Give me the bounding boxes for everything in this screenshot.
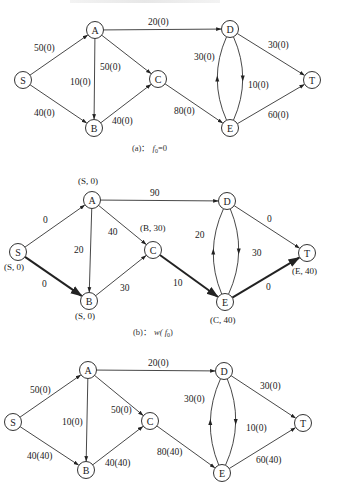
edge-label: 30(0) xyxy=(194,52,215,63)
edge-label: 30 xyxy=(120,283,130,293)
edge-label: 30 xyxy=(252,248,262,258)
edge-a-D-E xyxy=(233,37,242,120)
node-label-tag: (S, 0) xyxy=(75,311,95,321)
node-a-C: C xyxy=(150,71,167,88)
svg-text:B: B xyxy=(91,123,98,134)
svg-text:A: A xyxy=(84,365,92,376)
edge-c-A-D xyxy=(96,370,215,371)
node-label-tag: (C, 40) xyxy=(210,315,236,325)
caption-b: (b)： w( f0) xyxy=(133,327,173,338)
edge-label: 60(40) xyxy=(256,455,281,466)
node-b-D: D xyxy=(219,193,236,210)
arrowhead-icon xyxy=(237,248,241,254)
arrowhead-icon xyxy=(211,248,215,254)
edge-b-A-C xyxy=(99,205,146,244)
node-c-D: D xyxy=(216,363,233,380)
node-b-T: T xyxy=(299,245,316,262)
node-label-tag: (S, 0) xyxy=(4,262,24,272)
node-b-A: A xyxy=(84,192,101,209)
node-b-B: B xyxy=(81,293,98,310)
edge-label: 80(40) xyxy=(157,447,182,458)
node-c-S: S xyxy=(5,414,22,431)
edge-b-D-E xyxy=(229,209,239,294)
edge-label: 30(0) xyxy=(184,394,205,405)
edge-label: 10(0) xyxy=(248,80,269,91)
caption-a: (a)： f0=0 xyxy=(132,143,167,154)
svg-text:B: B xyxy=(83,465,90,476)
edge-a-S-A xyxy=(30,35,88,75)
edge-label: 0 xyxy=(42,279,47,289)
svg-text:B: B xyxy=(86,296,93,307)
edge-label: 50(0) xyxy=(111,405,132,416)
arrowhead-icon xyxy=(208,419,212,425)
svg-text:E: E xyxy=(219,468,225,479)
node-a-D: D xyxy=(222,21,239,38)
node-c-E: E xyxy=(214,465,231,482)
edge-label: 0 xyxy=(43,215,48,225)
node-a-S: S xyxy=(15,72,32,89)
edge-a-A-B xyxy=(94,38,95,119)
node-b-S: S xyxy=(10,244,27,261)
flow-network-diagrams: SABCDETSABCDETSABCDET 50(0)40(0)10(0)50(… xyxy=(0,0,337,484)
edge-a-C-E xyxy=(165,84,223,123)
svg-text:E: E xyxy=(222,297,228,308)
edge-c-E-D xyxy=(210,379,220,465)
edge-b-S-A xyxy=(25,205,85,247)
edge-label: 20 xyxy=(74,245,84,255)
edge-label: 0 xyxy=(267,214,272,224)
svg-text:T: T xyxy=(300,418,306,429)
edge-label: 80(0) xyxy=(174,106,195,117)
edge-label: 10(0) xyxy=(62,417,83,428)
edge-label: 20 xyxy=(195,230,205,240)
node-label-tag: (B, 30) xyxy=(140,223,166,233)
edge-label: 40 xyxy=(108,227,118,237)
node-c-T: T xyxy=(295,415,312,432)
edge-b-S-B xyxy=(25,257,82,296)
arrowhead-icon xyxy=(215,76,219,82)
edge-label: 50(0) xyxy=(30,385,51,396)
svg-text:A: A xyxy=(91,25,99,36)
node-c-B: B xyxy=(78,462,95,479)
node-label-tag: (S, 0) xyxy=(78,176,98,186)
edge-b-A-D xyxy=(100,200,218,201)
svg-text:D: D xyxy=(223,196,230,207)
node-c-A: A xyxy=(80,362,97,379)
edge-label: 50(0) xyxy=(100,62,121,73)
svg-text:D: D xyxy=(226,24,233,35)
edge-b-E-D xyxy=(213,209,223,294)
edge-label: 40(0) xyxy=(34,108,55,119)
edge-label: 40(40) xyxy=(105,458,130,469)
svg-text:C: C xyxy=(147,416,154,427)
edge-label: 30(0) xyxy=(260,381,281,392)
svg-text:C: C xyxy=(150,245,157,256)
edge-label: 60(0) xyxy=(268,110,289,121)
edge-label: 50(0) xyxy=(34,43,55,54)
arrowhead-icon xyxy=(234,419,238,425)
node-b-E: E xyxy=(217,294,234,311)
edge-label: 10(0) xyxy=(70,77,91,88)
svg-text:A: A xyxy=(88,195,96,206)
arrowhead-icon xyxy=(241,76,245,82)
node-a-T: T xyxy=(304,72,321,89)
svg-text:C: C xyxy=(155,74,162,85)
edge-c-D-E xyxy=(225,379,235,465)
edge-label: 40(40) xyxy=(27,451,52,462)
edge-a-A-D xyxy=(103,29,221,30)
edge-a-E-D xyxy=(217,37,226,120)
node-a-B: B xyxy=(86,120,103,137)
svg-text:E: E xyxy=(227,123,233,134)
svg-text:S: S xyxy=(20,75,26,86)
edge-label: 10(0) xyxy=(246,423,267,434)
edge-label: 20(0) xyxy=(148,358,169,369)
edge-label: 10 xyxy=(173,278,183,288)
edge-label: 40(0) xyxy=(112,116,133,127)
svg-text:S: S xyxy=(10,417,16,428)
edge-label: 30(0) xyxy=(268,40,289,51)
svg-text:D: D xyxy=(220,366,227,377)
svg-text:S: S xyxy=(15,247,21,258)
node-b-C: C xyxy=(145,242,162,259)
node-a-A: A xyxy=(87,22,104,39)
edge-label: 0 xyxy=(266,282,271,292)
node-a-E: E xyxy=(222,120,239,137)
edge-b-A-B xyxy=(89,208,91,292)
